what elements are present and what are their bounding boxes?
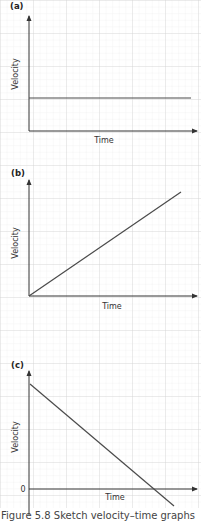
zero-tick-label-c: 0	[20, 485, 25, 494]
figure-caption: Figure 5.8 Sketch velocity–time graphs	[1, 510, 201, 521]
y-axis-label-a: Velocity	[11, 58, 20, 90]
panel-label-a: (a)	[10, 1, 24, 11]
x-axis-label-a: Time	[93, 136, 114, 145]
y-axis-label-b: Velocity	[11, 227, 20, 259]
figure-page: (a) Time Velocity (b) Time Velocity (c) …	[0, 0, 201, 524]
y-axis-label-c: Velocity	[11, 421, 20, 453]
panel-label-b: (b)	[11, 168, 25, 178]
x-axis-label-b: Time	[101, 302, 122, 311]
graph-paper-grid	[0, 0, 201, 508]
panel-label-c: (c)	[11, 360, 24, 370]
x-axis-label-c: Time	[104, 493, 125, 502]
figure-graphics: (a) Time Velocity (b) Time Velocity (c) …	[0, 0, 201, 524]
